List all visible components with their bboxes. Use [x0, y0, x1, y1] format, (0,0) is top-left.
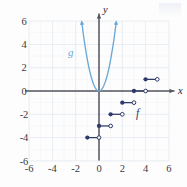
y-axis-arrowhead [97, 14, 102, 19]
coordinate-plane: -6-4-20246 6420-2-4-6 x y g f [0, 0, 187, 187]
x-axis-arrowhead [170, 89, 175, 94]
closed-endpoint-dot [120, 101, 124, 105]
open-endpoint-dot [132, 101, 136, 105]
y-axis-label: y [102, 4, 108, 15]
y-tick-label: 6 [21, 16, 26, 27]
closed-endpoint-dot [143, 77, 147, 81]
x-tick-label: 2 [120, 163, 125, 174]
y-tick-label: 4 [21, 39, 27, 50]
closed-endpoint-dot [109, 112, 113, 116]
x-tick-label: 6 [166, 163, 171, 174]
y-tick-label: -2 [20, 109, 29, 120]
open-endpoint-dot [97, 136, 101, 140]
graph-figure: -6-4-20246 6420-2-4-6 x y g f [0, 0, 187, 187]
x-axis-label: x [177, 85, 183, 96]
closed-endpoint-dot [85, 135, 89, 139]
y-tick-label: -6 [20, 156, 29, 167]
x-axis-tick-labels: -6-4-20246 [25, 163, 172, 174]
x-tick-label: 4 [143, 163, 149, 174]
open-endpoint-dot [144, 89, 148, 93]
curve-label-f: f [136, 107, 141, 120]
closed-endpoint-dot [97, 124, 101, 128]
y-tick-label: 0 [21, 86, 26, 97]
x-tick-label: 0 [96, 163, 101, 174]
closed-endpoint-dot [132, 89, 136, 93]
open-endpoint-dot [120, 112, 124, 116]
x-tick-label: -2 [71, 163, 80, 174]
open-endpoint-dot [155, 78, 159, 82]
y-tick-label: -4 [20, 132, 29, 143]
x-tick-label: -4 [48, 163, 57, 174]
open-endpoint-dot [109, 124, 113, 128]
curve-label-g: g [68, 46, 74, 58]
y-tick-label: 2 [21, 62, 26, 73]
